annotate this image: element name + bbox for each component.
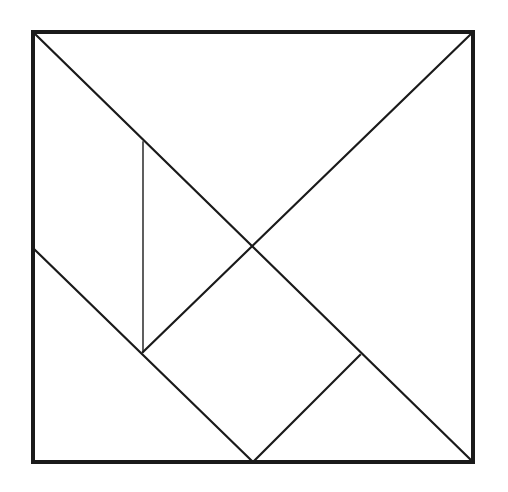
tangram-canvas	[0, 0, 508, 492]
tangram-diagram	[0, 0, 508, 492]
